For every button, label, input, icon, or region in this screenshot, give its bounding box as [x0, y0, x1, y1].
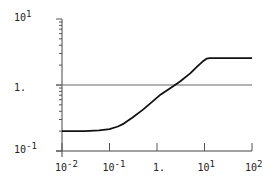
y-tick-label: 101 — [14, 13, 31, 23]
x-tick-label: 1. — [153, 163, 165, 173]
plot-area — [0, 0, 274, 183]
chart: 10-210-11.1011021011.10-1 — [0, 0, 274, 183]
data-line — [62, 58, 252, 131]
x-tick-label: 10-2 — [55, 163, 78, 173]
x-tick-label: 10-1 — [103, 163, 126, 173]
y-tick-label: 10-1 — [14, 145, 37, 155]
x-tick-label: 102 — [245, 163, 262, 173]
y-tick-label: 1. — [14, 83, 26, 93]
x-tick-label: 101 — [198, 163, 215, 173]
